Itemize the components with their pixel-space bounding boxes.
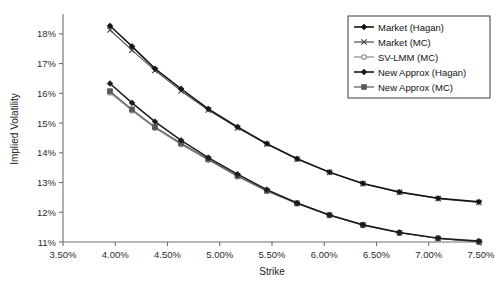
y-tick-label: 13% [37, 177, 57, 188]
legend: Market (Hagan)Market (MC)SV-LMM (MC)New … [348, 16, 490, 98]
x-tick-label: 7.00% [415, 249, 442, 260]
data-point [152, 124, 157, 129]
legend-label: New Approx (MC) [378, 82, 453, 93]
series-new-approx-mc [108, 89, 482, 244]
legend-label: New Approx (Hagan) [378, 67, 466, 78]
implied-volatility-chart: 11%12%13%14%15%16%17%18%3.50%4.00%4.50%5… [0, 0, 504, 297]
figure-container: 11%12%13%14%15%16%17%18%3.50%4.00%4.50%5… [0, 0, 504, 297]
data-point [108, 89, 113, 94]
y-tick-label: 15% [37, 118, 57, 129]
x-tick-label: 6.00% [311, 249, 338, 260]
x-axis-title: Strike [259, 266, 285, 277]
y-tick-label: 14% [37, 147, 57, 158]
data-point [129, 107, 134, 112]
y-tick-label: 18% [37, 28, 57, 39]
y-tick-label: 17% [37, 58, 57, 69]
x-tick-label: 6.50% [363, 249, 390, 260]
series-line [110, 91, 479, 241]
legend-marker-circle-open-icon [362, 55, 367, 60]
x-tick-label: 4.50% [154, 249, 181, 260]
y-tick-label: 16% [37, 88, 57, 99]
x-tick-label: 4.00% [102, 249, 129, 260]
x-tick-label: 3.50% [50, 249, 77, 260]
legend-label: Market (MC) [378, 37, 431, 48]
series-line [110, 84, 479, 242]
series-line [110, 93, 479, 243]
legend-marker-square-icon [362, 85, 367, 90]
x-tick-label: 7.50% [468, 249, 495, 260]
legend-label: SV-LMM (MC) [378, 52, 438, 63]
x-tick-label: 5.50% [259, 249, 286, 260]
series-sv-lmm-mc [108, 90, 481, 244]
y-tick-label: 11% [38, 237, 57, 248]
y-tick-label: 12% [37, 207, 57, 218]
series-new-approx-hagan [107, 81, 482, 244]
legend-label: Market (Hagan) [378, 22, 444, 33]
y-axis-title: Implied Volatility [9, 93, 20, 165]
x-tick-label: 5.00% [206, 249, 233, 260]
